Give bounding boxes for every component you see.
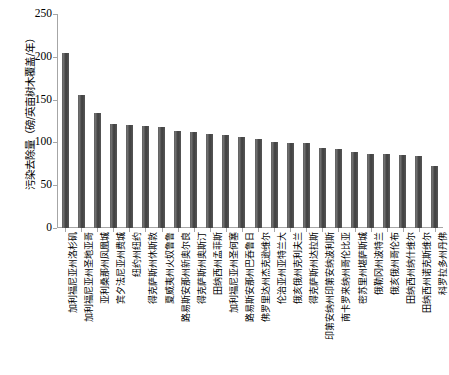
bar: [174, 131, 181, 228]
x-tick-label: 得克萨斯州达拉斯: [310, 232, 320, 366]
bar: [415, 156, 422, 228]
bar: [383, 154, 390, 228]
y-tick-label: 100: [18, 136, 52, 148]
y-tick-mark: [53, 185, 57, 186]
x-tick-label: 宾夕法尼亚州费城: [117, 232, 127, 366]
x-tick-label: 俄亥俄州哥伦布: [391, 232, 401, 366]
x-tick-label: 得克萨斯州奥斯汀: [198, 232, 208, 366]
x-tick-label: 科罗拉多州丹佛: [439, 232, 449, 366]
x-tick-label: 佛罗里达州杰克逊维尔: [262, 232, 272, 366]
bar: [190, 132, 197, 228]
x-tick-label: 俄亥俄州克利夫兰: [294, 232, 304, 366]
bar: [126, 125, 133, 228]
bar: [255, 139, 262, 228]
y-tick-mark: [53, 142, 57, 143]
y-axis-tick-labels: 050100150200250: [18, 0, 52, 228]
plot-area: [57, 14, 443, 228]
x-tick-label: 加利福尼亚州圣何塞: [230, 232, 240, 366]
bar: [142, 126, 149, 228]
y-tick-mark: [53, 57, 57, 58]
bar: [271, 142, 278, 228]
x-axis-tick-labels: 加利福尼亚州洛杉矶加利福尼亚州圣地亚哥亚利桑那州凤凰城宾夕法尼亚州费城纽约州纽约…: [57, 232, 443, 374]
x-tick-label: 加利福尼亚州圣地亚哥: [85, 232, 95, 366]
x-tick-label: 夏威夷州火奴鲁鲁: [166, 232, 176, 366]
bar: [367, 154, 374, 228]
x-tick-label: 路易斯安那州新奥尔良: [182, 232, 192, 366]
bar: [222, 135, 229, 228]
x-tick-label: 加利福尼亚州洛杉矶: [69, 232, 79, 366]
bar: [110, 124, 117, 228]
bar: [238, 137, 245, 228]
bar: [303, 143, 310, 228]
bar: [158, 127, 165, 228]
y-tick-label: 250: [18, 8, 52, 20]
x-tick-label: 田纳西州孟菲斯: [214, 232, 224, 366]
x-tick-label: 印第安纳州印第安纳波利斯: [326, 232, 336, 366]
bar: [399, 155, 406, 228]
x-tick-label: 密苏里州堪萨斯城: [359, 232, 369, 366]
y-tick-mark: [53, 14, 57, 15]
y-tick-label: 150: [18, 94, 52, 106]
y-tick-label: 200: [18, 51, 52, 63]
y-tick-mark: [53, 100, 57, 101]
x-tick-label: 得克萨斯州休斯敦: [149, 232, 159, 366]
x-tick-label: 伦治亚州亚特兰大: [278, 232, 288, 366]
y-tick-mark: [53, 228, 57, 229]
x-tick-label: 田纳西州诺克斯维尔: [423, 232, 433, 366]
bar: [351, 152, 358, 228]
x-tick-label: 南卡罗来纳州哥伦比亚: [342, 232, 352, 366]
bar: [335, 149, 342, 228]
bar: [94, 113, 101, 228]
bar: [431, 166, 438, 228]
x-tick-label: 路易斯安那州巴吞鲁日: [246, 232, 256, 366]
x-tick-label: 俄勒冈州波特兰: [375, 232, 385, 366]
bar: [206, 134, 213, 228]
bar-series: [57, 14, 443, 228]
x-tick-label: 亚利桑那州凤凰城: [101, 232, 111, 366]
x-tick-label: 田纳西州纳什维尔: [407, 232, 417, 366]
y-tick-label: 50: [18, 179, 52, 191]
bar: [319, 148, 326, 228]
x-tick-label: 纽约州纽约: [133, 232, 143, 366]
bar: [78, 95, 85, 228]
y-tick-label: 0: [18, 222, 52, 234]
bar: [62, 53, 69, 228]
bar: [287, 143, 294, 228]
bar-chart: 污染去除量（磅/英亩树木覆盖/年） 050100150200250 加利福尼亚州…: [0, 0, 449, 375]
